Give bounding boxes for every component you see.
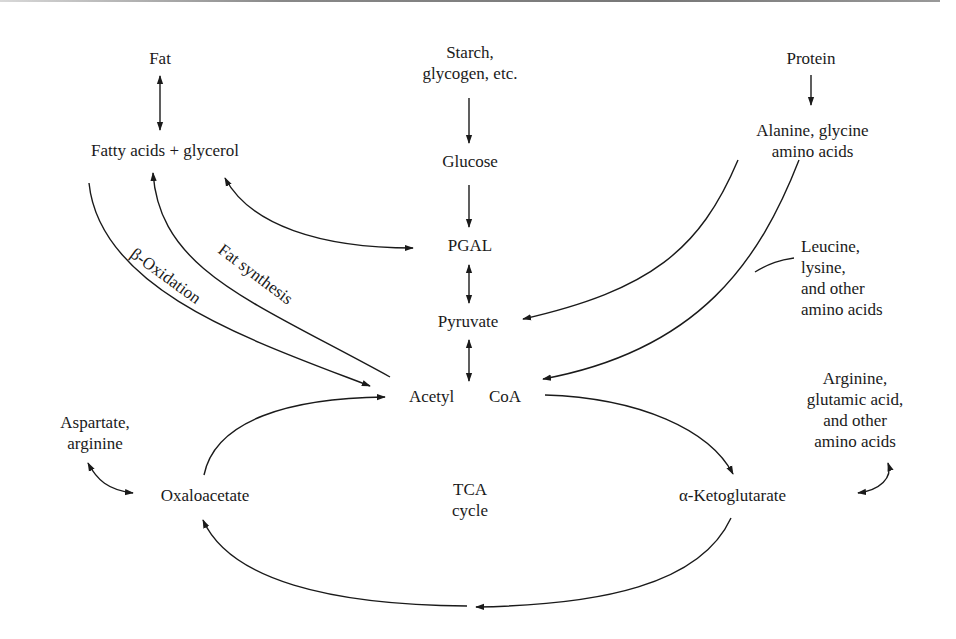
node-coa: CoA <box>489 386 521 407</box>
node-fat: Fat <box>130 48 190 69</box>
arrow-aspartate-oxaloacetate <box>88 463 133 493</box>
arrow-beta-oxidation <box>89 183 370 386</box>
node-tca-cycle: TCA cycle <box>420 479 520 521</box>
arrow-arginine-ketoglutarate <box>858 463 889 493</box>
node-glucose: Glucose <box>420 151 520 172</box>
node-pyruvate: Pyruvate <box>418 311 518 332</box>
node-alpha-ketoglutarate: α-Ketoglutarate <box>655 485 810 506</box>
arrow-alanine-pyruvate <box>523 160 738 319</box>
arrow-bottom-oxaloacetate <box>203 520 467 606</box>
arrow-oxaloacetate-acetylcoa <box>204 397 385 475</box>
arrow-leucine-merge <box>755 258 794 272</box>
node-fatty-acids-glycerol: Fatty acids + glycerol <box>50 140 280 161</box>
node-oxaloacetate: Oxaloacetate <box>140 485 270 506</box>
node-arginine-glutamic: Arginine, glutamic acid, and other amino… <box>780 368 930 452</box>
node-acetyl: Acetyl <box>409 386 454 407</box>
node-starch-glycogen: Starch, glycogen, etc. <box>405 42 535 84</box>
arrow-ketoglutarate-bottom <box>476 518 731 607</box>
node-aspartate-arginine: Aspartate, arginine <box>40 412 150 454</box>
node-alanine-glycine: Alanine, glycine amino acids <box>725 120 900 162</box>
arrow-acetylcoa-ketoglutarate <box>545 395 733 474</box>
node-protein: Protein <box>761 48 861 69</box>
arrow-fattyacids-pgal <box>225 178 413 248</box>
node-pgal: PGAL <box>430 235 510 256</box>
node-leucine-lysine: Leucine, lysine, and other amino acids <box>801 236 883 320</box>
